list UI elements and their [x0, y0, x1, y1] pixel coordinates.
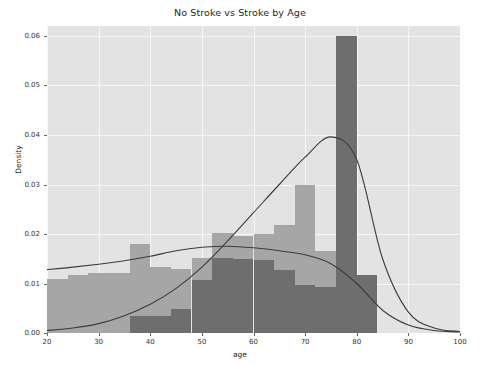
- histogram-bar: [192, 280, 213, 334]
- x-tick-mark: [99, 333, 100, 336]
- x-tick-mark: [47, 333, 48, 336]
- histogram-bar: [88, 273, 109, 333]
- x-tick-mark: [305, 333, 306, 336]
- x-tick-mark: [408, 333, 409, 336]
- y-tick-mark: [44, 135, 47, 136]
- gridline-vertical: [408, 26, 409, 333]
- x-tick-mark: [150, 333, 151, 336]
- histogram-bar: [68, 275, 89, 333]
- y-tick-label: 0.03: [6, 181, 40, 189]
- x-tick-mark: [254, 333, 255, 336]
- y-tick-mark: [44, 284, 47, 285]
- x-tick-label: 80: [342, 338, 372, 346]
- y-tick-label: 0.06: [6, 32, 40, 40]
- histogram-bar: [295, 285, 316, 334]
- gridline-horizontal: [47, 185, 460, 186]
- y-tick-mark: [44, 185, 47, 186]
- histogram-bar: [274, 270, 295, 333]
- x-tick-label: 20: [32, 338, 62, 346]
- x-tick-label: 40: [135, 338, 165, 346]
- chart-figure: No Stroke vs Stroke by Age 0.000.010.020…: [0, 0, 480, 366]
- y-tick-mark: [44, 36, 47, 37]
- x-tick-label: 100: [445, 338, 475, 346]
- gridline-horizontal: [47, 36, 460, 37]
- histogram-bar: [150, 316, 171, 333]
- y-tick-mark: [44, 85, 47, 86]
- gridline-horizontal: [47, 85, 460, 86]
- histogram-bar: [130, 316, 151, 333]
- x-tick-label: 70: [290, 338, 320, 346]
- y-tick-label: 0.05: [6, 81, 40, 89]
- plot-area: [47, 26, 460, 333]
- chart-title: No Stroke vs Stroke by Age: [0, 7, 480, 18]
- y-axis-label: Density: [14, 130, 23, 190]
- histogram-bar: [171, 309, 192, 333]
- y-tick-label: 0.00: [6, 329, 40, 337]
- histogram-bar: [109, 273, 130, 333]
- x-axis-label: age: [0, 350, 480, 359]
- x-tick-label: 90: [393, 338, 423, 346]
- histogram-bar: [357, 275, 378, 333]
- x-tick-mark: [202, 333, 203, 336]
- histogram-bar: [212, 258, 233, 333]
- y-tick-mark: [44, 234, 47, 235]
- y-tick-label: 0.04: [6, 131, 40, 139]
- histogram-bar: [254, 260, 275, 333]
- x-tick-mark: [357, 333, 358, 336]
- histogram-bar: [315, 287, 336, 333]
- y-tick-label: 0.02: [6, 230, 40, 238]
- histogram-bar: [233, 259, 254, 333]
- histogram-bar: [336, 36, 357, 333]
- x-tick-label: 50: [187, 338, 217, 346]
- x-tick-mark: [460, 333, 461, 336]
- x-tick-label: 60: [239, 338, 269, 346]
- y-tick-label: 0.01: [6, 280, 40, 288]
- gridline-horizontal: [47, 135, 460, 136]
- x-tick-label: 30: [84, 338, 114, 346]
- histogram-bar: [47, 279, 68, 334]
